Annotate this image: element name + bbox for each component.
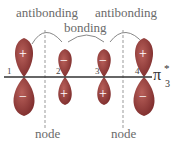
orbital-label: π: [153, 66, 161, 84]
sign-1-bottom: −: [19, 89, 27, 105]
sign-3-top: −: [99, 53, 107, 69]
orbital-symbol: π: [153, 66, 161, 83]
orbital-superscript: *: [164, 62, 170, 74]
arc-antibonding-left: [32, 32, 62, 44]
atom-number-2: 2: [56, 66, 61, 76]
arc-bonding: [68, 35, 104, 42]
sign-4-bottom: −: [139, 89, 147, 105]
label-node-right: node: [111, 126, 136, 142]
sign-3-bottom: +: [99, 86, 107, 102]
label-node-left: node: [35, 126, 60, 142]
label-antibonding-right: antibonding: [95, 5, 157, 21]
sign-2-bottom: +: [60, 86, 68, 102]
atom-number-1: 1: [7, 66, 12, 76]
orbital-subscript: 3: [165, 78, 170, 89]
sign-2-top: −: [60, 53, 68, 69]
sign-4-top: +: [139, 46, 147, 62]
atom-number-3: 3: [95, 66, 100, 76]
label-antibonding-left: antibonding: [16, 5, 78, 21]
sign-1-top: +: [19, 46, 27, 62]
label-bonding: bonding: [64, 20, 107, 36]
atom-number-4: 4: [135, 66, 140, 76]
